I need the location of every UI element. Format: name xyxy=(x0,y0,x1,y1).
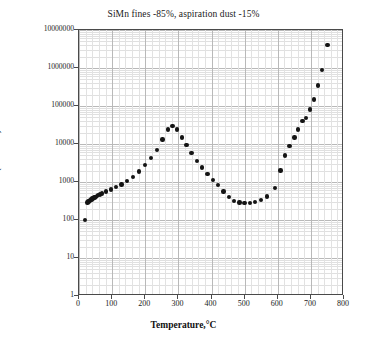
x-axis-tick-mark xyxy=(177,295,178,299)
data-point xyxy=(216,183,220,187)
gridline-x-minor xyxy=(318,30,319,294)
gridline-y-minor xyxy=(79,224,342,225)
gridline-y-minor xyxy=(79,159,342,160)
data-point xyxy=(125,179,129,183)
data-point xyxy=(109,187,113,191)
y-axis-tick-label: 100 xyxy=(63,215,74,223)
y-axis-tick-label: 1000 xyxy=(59,177,74,185)
gridline-x-minor xyxy=(172,30,173,294)
y-axis-tick-label: 1000000 xyxy=(47,63,74,71)
x-axis-tick-mark xyxy=(78,295,79,299)
gridline-y-minor xyxy=(79,50,342,51)
gridline-y-minor xyxy=(79,262,342,263)
gridline-y-minor xyxy=(79,41,342,42)
data-point xyxy=(292,135,296,139)
y-axis-tick-mark xyxy=(74,219,78,220)
y-axis-tick-label: 10000 xyxy=(55,139,74,147)
gridline-y-major xyxy=(79,144,342,145)
gridline-y-minor xyxy=(79,79,342,80)
gridline-x-minor xyxy=(159,30,160,294)
data-point xyxy=(287,144,291,148)
x-axis-tick-label: 800 xyxy=(323,300,363,308)
gridline-y-minor xyxy=(79,148,342,149)
x-axis-tick-mark xyxy=(277,295,278,299)
gridline-x-minor xyxy=(218,30,219,294)
gridline-x-minor xyxy=(251,30,252,294)
x-axis-tick-mark xyxy=(111,295,112,299)
gridline-y-minor xyxy=(79,152,342,153)
plot-area xyxy=(78,29,343,295)
gridline-y-minor xyxy=(79,228,342,229)
gridline-x-minor xyxy=(139,30,140,294)
x-axis-tick-mark xyxy=(310,295,311,299)
gridline-x-minor xyxy=(238,30,239,294)
gridline-y-minor xyxy=(79,34,342,35)
gridline-y-minor xyxy=(79,45,342,46)
data-point xyxy=(232,199,236,203)
y-axis-tick-labels: 110100100010000100000100000010000000 xyxy=(0,0,74,351)
gridline-y-minor xyxy=(79,133,342,134)
data-point xyxy=(166,127,170,131)
gridline-y-minor xyxy=(79,150,342,151)
y-axis-units: (MOm·m)-1 xyxy=(0,124,1,171)
data-point xyxy=(180,135,184,139)
gridline-x-major xyxy=(245,30,246,294)
data-point xyxy=(200,165,204,169)
gridline-y-major xyxy=(79,220,342,221)
gridline-y-minor xyxy=(79,70,342,71)
gridline-y-minor xyxy=(79,188,342,189)
y-axis-title: σ, (MOm·m)-1 xyxy=(0,88,2,208)
gridline-y-minor xyxy=(79,108,342,109)
data-point xyxy=(143,163,147,167)
gridline-y-minor xyxy=(79,235,342,236)
gridline-y-minor xyxy=(79,260,342,261)
gridline-y-minor xyxy=(79,114,342,115)
y-axis-tick-mark xyxy=(74,29,78,30)
gridline-y-minor xyxy=(79,285,342,286)
data-point xyxy=(227,195,231,199)
gridline-y-minor xyxy=(79,240,342,241)
data-point xyxy=(137,169,141,173)
gridline-y-minor xyxy=(79,72,342,73)
data-point xyxy=(104,189,108,193)
gridline-y-minor xyxy=(79,76,342,77)
data-point xyxy=(155,148,159,152)
x-axis-tick-mark xyxy=(144,295,145,299)
gridline-y-minor xyxy=(79,88,342,89)
y-axis-tick-label: 10 xyxy=(66,253,74,261)
gridline-x-major xyxy=(145,30,146,294)
gridline-x-minor xyxy=(86,30,87,294)
x-axis-tick-mark xyxy=(211,295,212,299)
gridline-x-minor xyxy=(231,30,232,294)
x-axis-tick-mark xyxy=(244,295,245,299)
data-point xyxy=(189,151,193,155)
y-axis-tick-mark xyxy=(74,181,78,182)
data-point xyxy=(205,172,209,176)
gridline-y-minor xyxy=(79,278,342,279)
data-point xyxy=(237,200,241,204)
y-axis-tick-label: 10000000 xyxy=(44,25,74,33)
gridline-x-minor xyxy=(225,30,226,294)
gridline-y-minor xyxy=(79,155,342,156)
gridline-x-minor xyxy=(304,30,305,294)
gridline-y-minor xyxy=(79,83,342,84)
gridline-y-major xyxy=(79,68,342,69)
gridline-y-minor xyxy=(79,266,342,267)
gridline-x-minor xyxy=(132,30,133,294)
data-point xyxy=(114,185,118,189)
gridline-y-major xyxy=(79,30,342,31)
gridline-x-minor xyxy=(205,30,206,294)
y-axis-tick-mark xyxy=(74,105,78,106)
data-point xyxy=(304,116,308,120)
gridline-y-minor xyxy=(79,264,342,265)
data-point xyxy=(149,156,153,160)
gridline-x-minor xyxy=(165,30,166,294)
data-point xyxy=(242,201,246,205)
gridline-x-minor xyxy=(119,30,120,294)
gridline-y-minor xyxy=(79,95,342,96)
gridline-x-major xyxy=(79,30,80,294)
data-point xyxy=(131,175,135,179)
gridline-y-minor xyxy=(79,226,342,227)
gridline-x-minor xyxy=(337,30,338,294)
gridline-y-minor xyxy=(79,269,342,270)
